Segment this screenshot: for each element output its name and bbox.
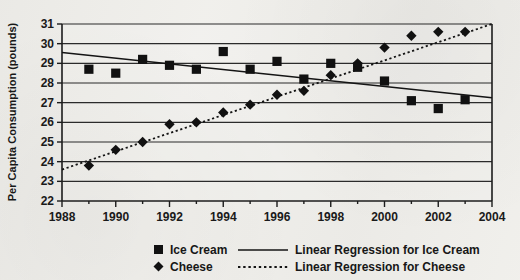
ice-cream-square-swatch: [154, 245, 163, 254]
legend-label-cheese-regression: Linear Regression for Cheese: [295, 260, 465, 274]
legend-label-ice-cream: Ice Cream: [170, 243, 227, 257]
ice-cream-point-1998: [326, 59, 335, 68]
ice-cream-point-1996: [272, 57, 281, 66]
y-tick-label-27: 27: [41, 96, 55, 110]
ice-cream-point-1989: [84, 65, 93, 74]
x-tick-label-1990: 1990: [102, 210, 129, 224]
x-tick-label-1992: 1992: [156, 210, 183, 224]
y-tick-label-30: 30: [41, 37, 55, 51]
x-tick-label-1998: 1998: [317, 210, 344, 224]
ice-cream-point-2003: [461, 95, 470, 104]
y-tick-label-28: 28: [41, 76, 55, 90]
ice-cream-point-1992: [165, 61, 174, 70]
x-tick-label-1988: 1988: [49, 210, 76, 224]
ice-cream-point-2002: [434, 104, 443, 113]
ice-cream-point-2001: [407, 96, 416, 105]
y-axis-tick-labels: 22232425262728293031: [41, 17, 55, 208]
x-tick-label-2004: 2004: [479, 210, 506, 224]
x-axis-tickmarks: [62, 201, 492, 207]
cheese-diamond-swatch: [154, 262, 164, 272]
y-tick-label-31: 31: [41, 17, 55, 31]
ice-cream-point-1995: [246, 65, 255, 74]
y-tick-label-26: 26: [41, 115, 55, 129]
y-axis-title: Per Capita Consumption (pounds): [6, 22, 18, 201]
consumption-scatter-chart: 22232425262728293031 1988199019921994199…: [0, 0, 520, 280]
ice-cream-point-1999: [353, 63, 362, 72]
x-tick-label-2002: 2002: [425, 210, 452, 224]
y-tick-label-23: 23: [41, 174, 55, 188]
plot-area-background: [62, 24, 492, 201]
y-tick-label-25: 25: [41, 135, 55, 149]
chart-legend: Ice Cream Linear Regression for Ice Crea…: [154, 243, 480, 274]
x-tick-label-2000: 2000: [371, 210, 398, 224]
legend-label-ice-cream-regression: Linear Regression for Ice Cream: [295, 243, 480, 257]
ice-cream-point-1994: [219, 47, 228, 56]
y-tick-label-24: 24: [41, 155, 55, 169]
x-axis-tick-labels: 198819901992199419961998200020022004: [49, 210, 506, 224]
y-tick-label-29: 29: [41, 56, 55, 70]
chart-page-root: 22232425262728293031 1988199019921994199…: [0, 0, 520, 280]
ice-cream-point-1993: [192, 65, 201, 74]
x-tick-label-1994: 1994: [210, 210, 237, 224]
y-tick-label-22: 22: [41, 194, 55, 208]
x-tick-label-1996: 1996: [264, 210, 291, 224]
ice-cream-point-2000: [380, 76, 389, 85]
ice-cream-point-1991: [138, 55, 147, 64]
ice-cream-point-1997: [299, 74, 308, 83]
ice-cream-point-1990: [111, 69, 120, 78]
legend-label-cheese: Cheese: [170, 260, 213, 274]
